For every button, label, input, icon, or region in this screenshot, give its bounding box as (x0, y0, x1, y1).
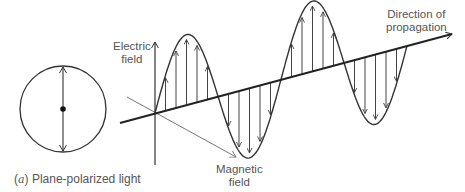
center-dot (60, 106, 66, 112)
magnetic-label-line1: Magnetic (216, 163, 263, 176)
caption-text: Plane-polarized light (32, 172, 141, 186)
end-view-circle-group (20, 66, 106, 152)
electric-label-line1: Electric (113, 40, 151, 53)
direction-label-line2: propagation (386, 21, 447, 34)
electric-label-line2: field (113, 53, 151, 66)
direction-of-propagation-label: Direction of propagation (386, 8, 447, 34)
magnetic-field-label: Magnetic field (216, 163, 263, 189)
electric-field-label: Electric field (113, 40, 151, 66)
caption-letter: a (18, 173, 25, 186)
figure-caption: (a) Plane-polarized light (14, 173, 141, 186)
magnetic-label-line2: field (216, 176, 263, 189)
direction-label-line1: Direction of (386, 8, 447, 21)
propagation-axis (120, 34, 452, 123)
